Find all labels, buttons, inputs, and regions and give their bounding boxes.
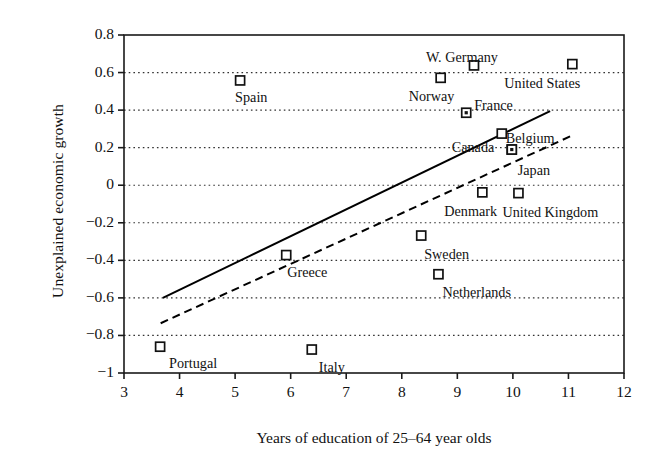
chart-figure: Unexplained economic growth Years of edu… [0, 0, 652, 465]
y-tick-label: 0.4 [70, 100, 114, 118]
x-tick-label: 12 [609, 383, 639, 401]
y-tick-label: −0.4 [70, 250, 114, 268]
y-tick-label: −0.6 [70, 288, 114, 306]
y-tick-label: 0.2 [70, 138, 114, 156]
x-tick-label: 4 [165, 383, 195, 401]
marker-spain [236, 76, 245, 85]
point-label-united-states: United States [504, 76, 580, 90]
point-label-united-kingdom: United Kingdom [502, 205, 598, 219]
point-label-france: France [474, 98, 513, 112]
x-tick-label: 6 [276, 383, 306, 401]
x-tick-label: 9 [442, 383, 472, 401]
x-tick-label: 11 [553, 383, 583, 401]
y-tick-label: 0.6 [70, 63, 114, 81]
y-tick-label: 0 [70, 175, 114, 193]
x-tick-label: 3 [109, 383, 139, 401]
y-tick-label: 0.8 [70, 25, 114, 43]
point-label-norway: Norway [409, 89, 455, 103]
marker-greece [282, 251, 291, 260]
y-tick-label: −0.8 [70, 325, 114, 343]
point-label-portugal: Portugal [169, 356, 217, 370]
x-tick-label: 5 [220, 383, 250, 401]
point-label-belgium: Belgium [506, 131, 555, 145]
x-tick-label: 8 [387, 383, 417, 401]
point-label-spain: Spain [235, 90, 267, 104]
marker-norway [436, 73, 445, 82]
marker-netherlands [434, 270, 443, 279]
point-label-denmark: Denmark [444, 204, 497, 218]
point-label-w-germany: W. Germany [426, 50, 498, 64]
marker-united-kingdom [514, 189, 523, 198]
point-label-greece: Greece [287, 265, 327, 279]
point-label-canada: Canada [452, 140, 495, 154]
x-tick-label: 10 [498, 383, 528, 401]
marker-italy [307, 345, 316, 354]
marker-denmark [478, 188, 487, 197]
marker-sweden [417, 231, 426, 240]
y-tick-label: −0.2 [70, 213, 114, 231]
marker-portugal [156, 342, 165, 351]
point-label-italy: Italy [319, 360, 345, 374]
marker-united-states [568, 60, 577, 69]
point-label-japan: Japan [518, 163, 550, 177]
point-label-sweden: Sweden [424, 247, 469, 261]
x-tick-label: 7 [331, 383, 361, 401]
y-tick-label: −1 [70, 363, 114, 381]
point-label-netherlands: Netherlands [442, 285, 511, 299]
